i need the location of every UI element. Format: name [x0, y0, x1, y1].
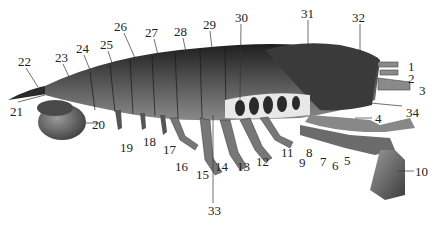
part-label-13: 13	[237, 160, 250, 173]
part-label-4: 4	[375, 112, 382, 125]
claw-10	[370, 150, 405, 200]
anatomy-figure: 1234567891011121314151617181920212223242…	[0, 0, 438, 225]
part-label-34: 34	[406, 106, 419, 119]
part-label-24: 24	[76, 42, 89, 55]
part-label-6: 6	[332, 159, 339, 172]
part-label-19: 19	[120, 141, 133, 154]
part-label-31: 31	[301, 7, 314, 20]
part-label-18: 18	[143, 135, 156, 148]
part-label-15: 15	[196, 168, 209, 181]
part-label-7: 7	[320, 155, 327, 168]
part-label-33: 33	[208, 204, 221, 217]
part-label-28: 28	[174, 25, 187, 38]
arthropod-illustration	[0, 0, 438, 225]
part-label-21: 21	[10, 105, 23, 118]
part-label-12: 12	[256, 155, 269, 168]
part-label-9: 9	[299, 156, 306, 169]
part-label-3: 3	[419, 84, 426, 97]
part-label-5: 5	[344, 154, 351, 167]
part-label-16: 16	[175, 160, 188, 173]
part-label-27: 27	[145, 26, 158, 39]
part-label-14: 14	[215, 160, 228, 173]
part-label-22: 22	[18, 55, 31, 68]
part-label-20: 20	[92, 118, 105, 131]
part-label-17: 17	[163, 143, 176, 156]
part-label-2: 2	[408, 72, 415, 85]
part-label-8: 8	[306, 146, 313, 159]
part-label-30: 30	[235, 11, 248, 24]
part-label-23: 23	[55, 51, 68, 64]
part-label-26: 26	[114, 20, 127, 33]
part-label-10: 10	[415, 165, 428, 178]
part-label-25: 25	[100, 38, 113, 51]
part-label-29: 29	[203, 18, 216, 31]
part-label-11: 11	[281, 146, 294, 159]
part-label-32: 32	[352, 11, 365, 24]
